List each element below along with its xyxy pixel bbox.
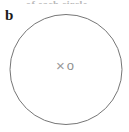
cross-marker-icon: ×	[56, 58, 65, 73]
center-marker-group: × o	[56, 58, 74, 73]
figure-panel: of each circle b × o	[0, 0, 129, 132]
ring-marker-icon: o	[67, 58, 74, 73]
